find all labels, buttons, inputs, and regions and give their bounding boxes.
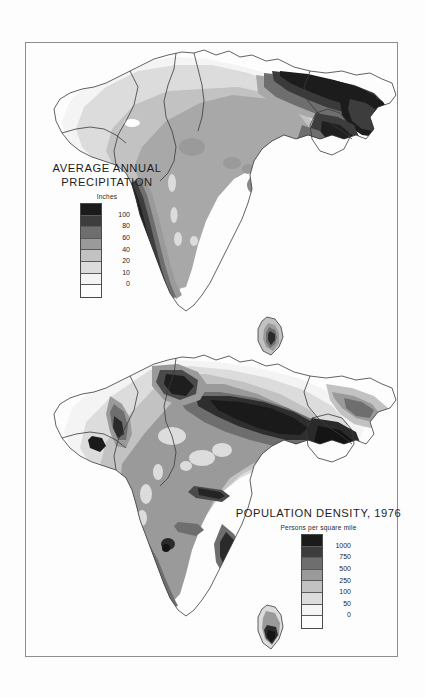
- tick-pop-1000: 1000: [325, 540, 351, 552]
- swatch-pop-100-250: [302, 581, 322, 593]
- population-density-legend: POPULATION DENSITY, 1976 Persons per squ…: [231, 506, 406, 628]
- population-density-legend-title: POPULATION DENSITY, 1976: [231, 506, 406, 520]
- swatch-precip-20-40: [81, 250, 101, 262]
- swatch-precip-0-10: [81, 274, 101, 286]
- precipitation-legend-title: AVERAGE ANNUAL PRECIPITATION: [32, 161, 182, 189]
- tick-pop-100: 100: [325, 586, 351, 598]
- swatch-pop-0-50: [302, 605, 322, 617]
- swatch-precip-10-20: [81, 262, 101, 274]
- tick-precip-100: 100: [104, 209, 130, 221]
- map-plate-page: AVERAGE ANNUAL PRECIPITATION Inches 100: [0, 0, 425, 697]
- tick-precip-0: 0: [104, 278, 130, 290]
- swatch-pop-250-500: [302, 570, 322, 582]
- tick-precip-60: 60: [104, 232, 130, 244]
- precipitation-tick-column: 100 80 60 40 20 10 0: [104, 209, 254, 290]
- swatch-pop-0: [302, 616, 322, 628]
- population-swatch-column: [301, 534, 323, 629]
- swatch-pop-1000plus: [302, 535, 322, 547]
- population-density-legend-scale: 1000 750 500 250 100 50 0: [231, 534, 406, 628]
- precipitation-legend: AVERAGE ANNUAL PRECIPITATION Inches 100: [32, 161, 182, 297]
- swatch-pop-50-100: [302, 593, 322, 605]
- tick-precip-20: 20: [104, 255, 130, 267]
- precipitation-units-label: Inches: [32, 193, 182, 200]
- tick-precip-40: 40: [104, 244, 130, 256]
- swatch-pop-750-1000: [302, 547, 322, 559]
- tick-pop-500: 500: [325, 563, 351, 575]
- swatch-precip-100plus: [81, 204, 101, 216]
- plate-frame: AVERAGE ANNUAL PRECIPITATION Inches 100: [25, 42, 398, 657]
- precipitation-swatch-column: [80, 203, 102, 298]
- tick-precip-80: 80: [104, 220, 130, 232]
- precipitation-legend-scale: 100 80 60 40 20 10 0: [32, 203, 182, 297]
- population-density-units-label: Persons per square mile: [231, 524, 406, 531]
- swatch-precip-40-60: [81, 239, 101, 251]
- tick-pop-0: 0: [325, 609, 351, 621]
- tick-pop-750: 750: [325, 551, 351, 563]
- swatch-pop-500-750: [302, 558, 322, 570]
- tick-pop-250: 250: [325, 575, 351, 587]
- population-tick-column: 1000 750 500 250 100 50 0: [325, 540, 425, 621]
- swatch-precip-80-100: [81, 216, 101, 228]
- swatch-precip-60-80: [81, 227, 101, 239]
- swatch-precip-0: [81, 285, 101, 297]
- tick-precip-10: 10: [104, 267, 130, 279]
- tick-pop-50: 50: [325, 598, 351, 610]
